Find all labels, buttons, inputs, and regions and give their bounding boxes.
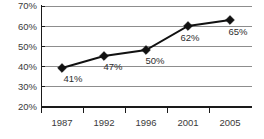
x-tick-label-1992: 1992 <box>93 117 114 128</box>
y-tick-label-40: 40% <box>18 61 38 72</box>
data-label-1987: 41% <box>63 73 83 84</box>
line-chart: 70% 60% 50% 40% 30% 20% 41% 47% 50% 62% … <box>0 0 264 139</box>
data-label-1992: 47% <box>103 61 123 72</box>
data-label-1996: 50% <box>145 55 165 66</box>
y-tick-label-60: 60% <box>18 21 38 32</box>
chart-screenshot: 70% 60% 50% 40% 30% 20% 41% 47% 50% 62% … <box>0 0 264 139</box>
y-tick-label-30: 30% <box>18 81 38 92</box>
x-tick-label-2005: 2005 <box>219 117 240 128</box>
y-tick-label-70: 70% <box>18 0 38 11</box>
data-label-2001: 62% <box>180 32 200 43</box>
x-tick-label-1987: 1987 <box>51 117 72 128</box>
data-label-2005: 65% <box>228 26 248 37</box>
y-tick-label-50: 50% <box>18 41 38 52</box>
y-tick-label-20: 20% <box>18 101 38 112</box>
x-tick-label-1996: 1996 <box>135 117 156 128</box>
x-tick-label-2001: 2001 <box>177 117 198 128</box>
